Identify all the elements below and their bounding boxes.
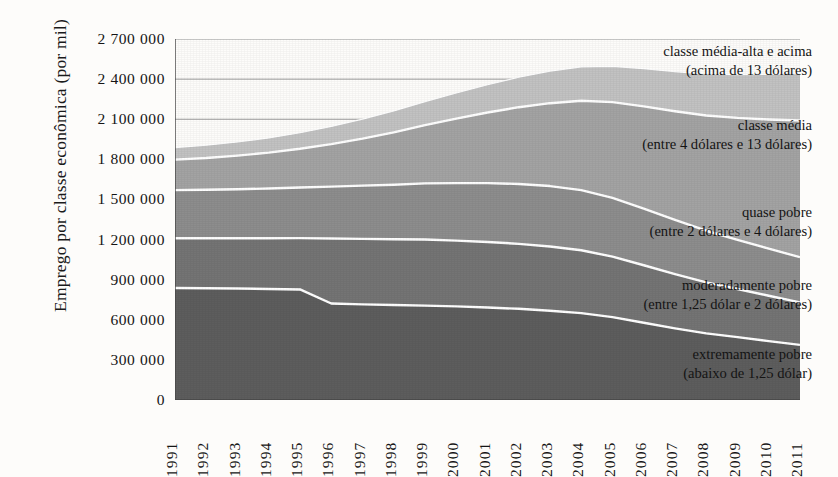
series-annotation-sublabel: (entre 4 dólares e 13 dólares) [642, 135, 812, 154]
y-axis-tick-label: 2 400 000 [37, 70, 165, 88]
x-axis-tick-label: 2004 [569, 387, 587, 477]
series-annotation-name: classe média [738, 117, 812, 133]
series-annotation-name: moderadamente pobre [682, 277, 812, 293]
series-annotation-name: quase pobre [742, 204, 812, 220]
y-axis-tick-label: 2 100 000 [37, 110, 165, 128]
x-axis-tick-label: 2002 [507, 387, 525, 477]
x-axis-tick-label: 2005 [601, 387, 619, 477]
y-axis-tick-label: 0 [37, 391, 165, 409]
y-axis-tick-label: 1 800 000 [37, 150, 165, 168]
y-axis-tick-label: 900 000 [37, 271, 165, 289]
y-axis-tick-label: 300 000 [37, 351, 165, 369]
x-axis-tick-label: 1996 [319, 387, 337, 477]
series-annotation-sublabel: (entre 2 dólares e 4 dólares) [650, 222, 812, 241]
x-axis-tick-label: 1995 [288, 387, 306, 477]
series-annotation-name: extremamente pobre [692, 346, 812, 362]
y-axis-tick-label: 2 700 000 [37, 30, 165, 48]
y-axis-tick-label: 1 200 000 [37, 231, 165, 249]
x-axis-tick-label: 1994 [257, 387, 275, 477]
x-axis-tick-label: 1999 [413, 387, 431, 477]
series-annotation-name: classe média-alta e acima [663, 43, 812, 59]
x-axis-tick-label: 2001 [476, 387, 494, 477]
x-axis-tick-label: 1993 [226, 387, 244, 477]
series-annotation: classe média-alta e acima(acima de 13 dó… [663, 42, 812, 81]
x-axis-tick-label: 1991 [163, 387, 181, 477]
x-axis-tick-label: 1997 [351, 387, 369, 477]
y-axis-tick-label: 1 500 000 [37, 190, 165, 208]
x-axis-tick-labels: 1991199219931994199519961997199819992000… [0, 409, 838, 477]
x-axis-tick-label: 2000 [444, 387, 462, 477]
y-axis-tick-label: 600 000 [37, 311, 165, 329]
x-axis-tick-label: 2007 [663, 387, 681, 477]
series-annotation-sublabel: (entre 1,25 dólar e 2 dólares) [643, 295, 812, 314]
x-axis-tick-label: 2008 [694, 387, 712, 477]
x-axis-tick-label: 2011 [788, 387, 806, 477]
series-annotation-sublabel: (acima de 13 dólares) [663, 61, 812, 80]
series-annotation: extremamente pobre(abaixo de 1,25 dólar) [683, 345, 812, 384]
x-axis-tick-label: 1998 [382, 387, 400, 477]
y-axis-tick-labels: 0300 000600 000900 0001 200 0001 500 000… [35, 0, 165, 477]
x-axis-tick-label: 2003 [538, 387, 556, 477]
series-annotation-sublabel: (abaixo de 1,25 dólar) [683, 364, 812, 383]
x-axis-tick-label: 2010 [757, 387, 775, 477]
chart-stage: Emprego por classe econômica (por mil) 0… [0, 0, 838, 477]
series-annotation: moderadamente pobre(entre 1,25 dólar e 2… [643, 276, 812, 315]
x-axis-tick-label: 2006 [632, 387, 650, 477]
x-axis-tick-label: 1992 [194, 387, 212, 477]
series-annotation: quase pobre(entre 2 dólares e 4 dólares) [650, 203, 812, 242]
x-axis-tick-label: 2009 [726, 387, 744, 477]
series-annotation: classe média(entre 4 dólares e 13 dólare… [642, 116, 812, 155]
